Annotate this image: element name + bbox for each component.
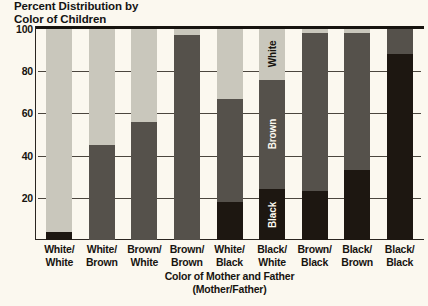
y-tick-label: 40: [22, 150, 33, 162]
category-label-white-brown: White/Brown: [81, 243, 124, 268]
category-label-brown-black: Brown/Black: [293, 243, 336, 268]
bar-segment-brown: [174, 35, 200, 240]
bar-segment-black: Black: [259, 189, 285, 240]
category-label-line: Brown/: [293, 243, 336, 256]
bar-white-black[interactable]: [217, 29, 243, 239]
bar-segment-white: [217, 29, 243, 99]
segment-annotation-black: Black: [267, 202, 278, 228]
bar-segment-brown: [89, 145, 115, 240]
category-label-black-brown: Black/Brown: [336, 243, 379, 268]
category-label-white-black: White/Black: [208, 243, 251, 268]
category-label-line: Black: [208, 256, 251, 269]
bar-segment-black: [302, 191, 328, 240]
category-label-line: Brown: [81, 256, 124, 269]
category-label-line: White/: [81, 243, 124, 256]
x-axis-title-sub: (Mother/Father): [38, 283, 421, 296]
category-label-black-black: Black/Black: [378, 243, 421, 268]
bar-brown-black[interactable]: [302, 29, 328, 239]
category-label-line: Brown/: [123, 243, 166, 256]
category-label-line: White: [251, 256, 294, 269]
chart-container: Percent Distribution by Color of Childre…: [0, 0, 428, 306]
bar-segment-white: [89, 29, 115, 145]
category-label-line: Black/: [378, 243, 421, 256]
bar-segment-black: [387, 54, 413, 240]
category-label-line: Brown/: [166, 243, 209, 256]
y-tick-label: 60: [22, 107, 33, 119]
x-axis-title-main: Color of Mother and Father: [38, 270, 421, 283]
bar-segment-brown: [131, 122, 157, 240]
plot-area: 20406080100 WhiteBrownBlack: [38, 29, 421, 240]
category-label-black-white: Black/White: [251, 243, 294, 268]
category-label-line: Black/: [336, 243, 379, 256]
category-label-brown-brown: Brown/Brown: [166, 243, 209, 268]
bar-segment-brown: [302, 33, 328, 191]
category-label-line: White/: [38, 243, 81, 256]
category-label-line: Brown: [166, 256, 209, 269]
y-axis-spine: [35, 26, 36, 240]
bar-segment-black: [344, 170, 370, 240]
y-tick-label: 100: [16, 23, 33, 35]
bar-segment-brown: [217, 99, 243, 202]
category-label-line: Black/: [251, 243, 294, 256]
page-title: Percent Distribution by Color of Childre…: [14, 0, 274, 25]
chart-title-line-1: Percent Distribution by: [14, 0, 274, 13]
bar-segment-brown: [387, 29, 413, 54]
segment-annotation-white: White: [267, 41, 278, 68]
bar-segment-brown: Brown: [259, 80, 285, 190]
bar-black-black[interactable]: [387, 29, 413, 239]
bar-black-brown[interactable]: [344, 29, 370, 239]
x-axis-title: Color of Mother and Father (Mother/Fathe…: [38, 270, 421, 296]
bar-segment-black: [217, 202, 243, 240]
category-label-line: White: [38, 256, 81, 269]
y-tick-label: 80: [22, 65, 33, 77]
category-label-line: Brown: [336, 256, 379, 269]
bar-segment-white: [131, 29, 157, 122]
category-label-line: Black: [293, 256, 336, 269]
category-label-brown-white: Brown/White: [123, 243, 166, 268]
bar-black-white[interactable]: WhiteBrownBlack: [259, 29, 285, 239]
category-label-line: Black: [378, 256, 421, 269]
bar-segment-white: White: [259, 29, 285, 80]
bar-brown-brown[interactable]: [174, 29, 200, 239]
segment-annotation-brown: Brown: [267, 119, 278, 150]
category-label-line: White/: [208, 243, 251, 256]
bar-segment-white: [46, 29, 72, 232]
bar-segment-black: [46, 232, 72, 240]
category-label-white-white: White/White: [38, 243, 81, 268]
bar-white-white[interactable]: [46, 29, 72, 239]
bar-brown-white[interactable]: [131, 29, 157, 239]
category-label-line: White: [123, 256, 166, 269]
bar-white-brown[interactable]: [89, 29, 115, 239]
chart-title-line-2: Color of Children: [14, 13, 274, 26]
bar-segment-brown: [344, 33, 370, 170]
y-tick-label: 20: [22, 192, 33, 204]
